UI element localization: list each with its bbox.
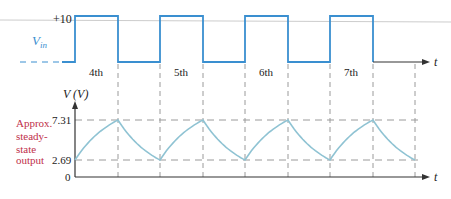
annotation-line-2: steady- — [16, 130, 48, 142]
tick-label-7-31: 7.31 — [52, 114, 71, 126]
pulse-label-6th: 6th — [259, 66, 274, 78]
bottom-time-arrow-icon — [422, 174, 430, 180]
level-label-plus10: +10 — [53, 12, 72, 26]
vin-label-sub: in — [40, 40, 48, 50]
y-axis-label: V (V) — [63, 87, 88, 101]
top-t-label: t — [434, 55, 438, 69]
bottom-y-arrow-icon — [72, 101, 78, 109]
steady-state-waveform-diagram: +10 Vin t 4th 5th 6th 7th V (V) 7.31 2.6… — [0, 0, 451, 199]
tick-label-0: 0 — [65, 171, 71, 183]
bottom-t-label: t — [434, 170, 438, 184]
vin-pulse-train — [62, 16, 373, 62]
pulse-label-7th: 7th — [344, 66, 359, 78]
horizontal-guides — [75, 120, 418, 160]
pulse-label-4th: 4th — [89, 66, 104, 78]
y-axis-label-text: V (V) — [63, 87, 88, 101]
pulse-label-5th: 5th — [174, 66, 189, 78]
top-time-arrow-icon — [422, 59, 430, 65]
tick-label-2-69: 2.69 — [52, 154, 72, 166]
annotation-line-1: Approx. — [16, 117, 53, 129]
steady-state-annotation: Approx. steady- state output — [16, 117, 53, 166]
annotation-line-4: output — [16, 154, 44, 166]
vin-label: Vin — [32, 33, 47, 50]
